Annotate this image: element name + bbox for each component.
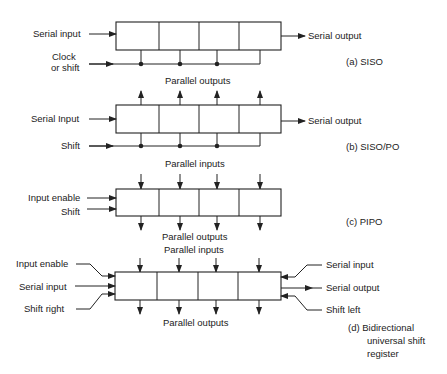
- label-serial-input: Serial input: [33, 28, 81, 39]
- label-parallel-outputs: Parallel outputs: [163, 317, 229, 328]
- junction-dot: [178, 144, 183, 149]
- label-input-enable: Input enable: [28, 192, 80, 203]
- shift-right-arrow: [76, 294, 115, 309]
- caption-a: (a) SISO: [346, 56, 383, 67]
- label-serial-input-right: Serial input: [326, 259, 374, 270]
- junction-dot: [139, 62, 144, 67]
- junction-dot: [215, 62, 220, 67]
- junction-dot: [215, 144, 220, 149]
- label-shift-right: Shift right: [24, 303, 64, 314]
- caption-b: (b) SISO/PO: [346, 141, 399, 152]
- label-serial-output: Serial output: [326, 282, 380, 293]
- label-shift: Shift: [61, 140, 80, 151]
- label-serial-input: Serial Input: [31, 113, 79, 124]
- shift-register-diagram: Serial input Serial output Clock or shif…: [0, 0, 447, 374]
- junction-dot: [178, 62, 183, 67]
- label-parallel-inputs: Parallel inputs: [165, 158, 225, 169]
- caption-d-line1: (d) Bidirectional: [348, 322, 414, 333]
- label-serial-output: Serial output: [308, 30, 362, 41]
- label-serial-input: Serial input: [19, 281, 67, 292]
- label-input-enable: Input enable: [16, 258, 68, 269]
- caption-c: (c) PIPO: [346, 216, 382, 227]
- panel-d-bidirectional: Parallel inputs Input enable Serial inpu…: [16, 244, 425, 359]
- panel-c-pipo: Input enable Shift (c) PIPO Parallel out…: [28, 174, 382, 242]
- caption-d-line3: register: [367, 348, 399, 359]
- label-parallel-inputs: Parallel inputs: [164, 244, 224, 255]
- label-shift-left: Shift left: [326, 304, 361, 315]
- junction-dot: [139, 144, 144, 149]
- label-clock: Clock: [52, 51, 76, 62]
- caption-d-line2: universal shift: [367, 335, 425, 346]
- input-enable-arrow: [76, 264, 115, 276]
- panel-a-siso: Serial input Serial output Clock or shif…: [33, 22, 383, 86]
- shift-left-arrow: [281, 296, 322, 310]
- label-parallel-outputs: Parallel outputs: [165, 75, 231, 86]
- label-shift: Shift: [61, 206, 80, 217]
- label-or-shift: or shift: [51, 62, 80, 73]
- label-serial-output: Serial output: [308, 115, 362, 126]
- label-parallel-outputs: Parallel outputs: [162, 231, 228, 242]
- serial-input-right-arrow: [281, 265, 322, 277]
- panel-b-siso-po: Serial Input Serial output Shift (b) SIS…: [31, 91, 399, 169]
